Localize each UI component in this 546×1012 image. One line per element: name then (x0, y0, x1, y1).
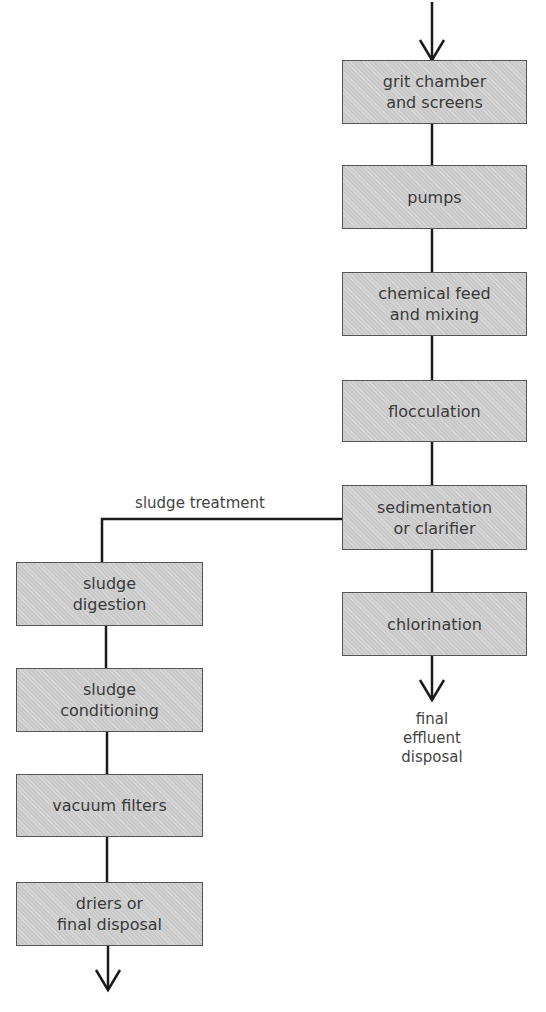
box-driers: driers or final disposal (16, 882, 203, 946)
box-pumps: pumps (342, 165, 527, 229)
box-vacuum-filters: vacuum filters (16, 774, 203, 837)
box-sludge-conditioning: sludge conditioning (16, 668, 203, 732)
label-final-effluent: final effluent disposal (372, 710, 492, 767)
box-grit-chamber: grit chamber and screens (342, 60, 527, 124)
label-sludge-treatment: sludge treatment (120, 494, 280, 513)
box-chemical-feed: chemical feed and mixing (342, 272, 527, 336)
box-chlorination: chlorination (342, 592, 527, 656)
box-sludge-digestion: sludge digestion (16, 562, 203, 626)
box-flocculation: flocculation (342, 380, 527, 442)
box-sedimentation: sedimentation or clarifier (342, 485, 527, 550)
